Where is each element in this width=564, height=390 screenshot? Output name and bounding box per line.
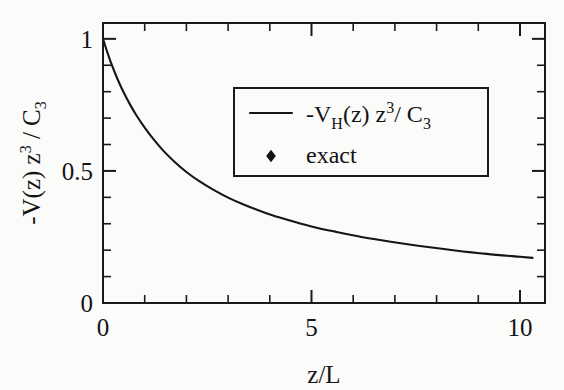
legend[interactable]: -VH(z) z3/ C3 exact <box>234 88 488 176</box>
svg-text:-V(z) z3 / C3: -V(z) z3 / C3 <box>17 101 49 225</box>
y-axis-title-lead: -V(z) z <box>18 153 46 224</box>
x-axis-tick-labels: 0510 <box>97 314 533 341</box>
y-axis-tick-labels: 00.51 <box>62 26 93 317</box>
figure-canvas: 0510 00.51 z/L -V(z) z3 / C3 -VH(z) z3/ … <box>0 0 564 390</box>
y-tick-label: 0.5 <box>62 158 93 185</box>
y-axis-title-subscript: 3 <box>32 101 49 109</box>
y-axis-title-exponent: 3 <box>17 145 34 153</box>
x-axis-title: z/L <box>307 361 340 388</box>
y-axis-title: -V(z) z3 / C3 <box>17 101 49 225</box>
y-axis-title-mid: / C <box>18 109 45 145</box>
y-tick-label: 1 <box>81 26 94 53</box>
legend-label-exact: exact <box>306 142 357 168</box>
x-tick-label: 5 <box>305 314 318 341</box>
chart-svg: 0510 00.51 z/L -V(z) z3 / C3 -VH(z) z3/ … <box>0 0 564 390</box>
y-tick-label: 0 <box>81 290 94 317</box>
x-tick-label: 0 <box>97 314 110 341</box>
x-tick-label: 10 <box>507 314 532 341</box>
